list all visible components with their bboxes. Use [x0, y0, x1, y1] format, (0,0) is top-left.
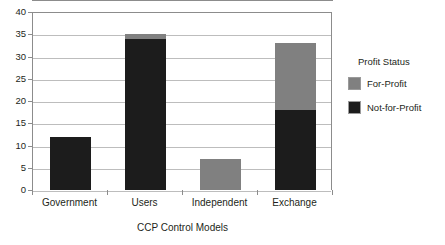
x-axis-tick-mark	[332, 190, 333, 195]
x-axis-tick-mark	[107, 190, 108, 195]
y-axis-tick-label: 0	[0, 185, 26, 195]
y-axis-tick-label: 25	[0, 74, 26, 84]
legend-item[interactable]: Not-for-Profit	[348, 101, 444, 114]
bar-segment-not-for-profit	[50, 137, 91, 190]
legend: Profit Status For-ProfitNot-for-Profit	[348, 56, 444, 125]
y-axis-tick-label: 10	[0, 141, 26, 151]
bar-segment-not-for-profit	[275, 110, 316, 190]
legend-title: Profit Status	[358, 56, 444, 68]
x-axis-tick-mark	[32, 190, 33, 195]
x-axis-tick-mark	[257, 190, 258, 195]
y-axis-tick-label: 35	[0, 29, 26, 39]
x-axis-category-label: Government	[32, 197, 107, 209]
x-axis-tick-mark	[182, 190, 183, 195]
legend-swatch-icon	[348, 77, 361, 90]
legend-swatch-icon	[348, 101, 361, 114]
bar-government[interactable]	[50, 12, 91, 190]
chart-figure: 0510152025303540 GovernmentUsersIndepend…	[0, 0, 445, 245]
bar-independent[interactable]	[200, 12, 241, 190]
y-axis-tick-label: 15	[0, 118, 26, 128]
plot-area	[32, 12, 332, 190]
x-axis-category-label: Exchange	[257, 197, 332, 209]
x-axis-title: CCP Control Models	[32, 222, 333, 234]
x-axis-baseline	[32, 0, 333, 1]
legend-entries: For-ProfitNot-for-Profit	[348, 77, 444, 114]
x-axis-category-label: Independent	[182, 197, 257, 209]
legend-item-label: Not-for-Profit	[367, 102, 421, 113]
legend-item[interactable]: For-Profit	[348, 77, 444, 90]
bar-users[interactable]	[125, 12, 166, 190]
x-axis-category-label: Users	[107, 197, 182, 209]
y-axis-tick-label: 20	[0, 96, 26, 106]
bar-segment-for-profit	[275, 43, 316, 110]
y-axis-tick-label: 40	[0, 7, 26, 17]
bars-layer	[33, 13, 331, 190]
y-axis-tick-label: 5	[0, 163, 26, 173]
legend-item-label: For-Profit	[367, 78, 407, 89]
y-axis-tick-label: 30	[0, 52, 26, 62]
bar-segment-for-profit	[200, 159, 241, 190]
bar-segment-not-for-profit	[125, 39, 166, 190]
bar-exchange[interactable]	[275, 12, 316, 190]
